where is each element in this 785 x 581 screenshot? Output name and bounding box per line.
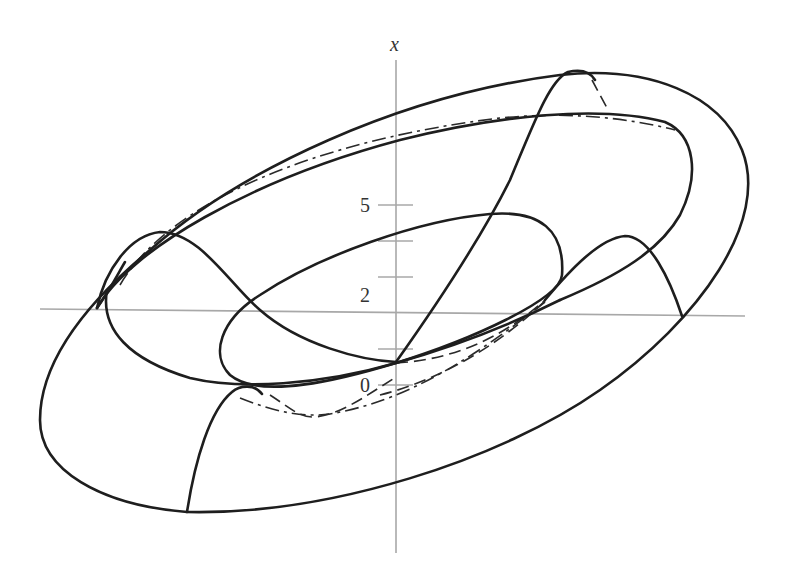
tick-label-5: 5 [360,195,370,215]
hidden-peak-top [592,80,607,108]
tick-label-2: 2 [360,285,370,305]
tick-label-0: 0 [360,375,370,395]
winding-curve [97,71,682,512]
axes [40,60,745,553]
hidden-edges [120,80,675,417]
center-circle-front [240,302,545,415]
axis-label-x: x [390,34,399,54]
outer-rim [40,73,748,512]
torus-edges [40,73,748,512]
winding-segment-left [97,232,396,362]
horizontal-axis [40,309,745,316]
winding-segment-right [545,236,682,316]
winding-segment-bottom [187,387,262,512]
upper-rim-inner [97,114,692,308]
